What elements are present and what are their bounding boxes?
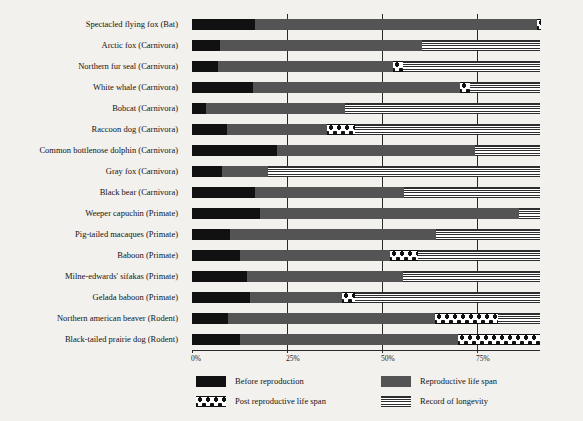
bar-segment-record-of-longevity: [404, 187, 540, 198]
bar-segment-before-reproduction: [192, 124, 227, 135]
bar-segment-record-of-longevity: [418, 250, 540, 261]
bar-segment-reproductive-life-span: [277, 145, 475, 156]
y-axis-label: Northern fur seal (Carnivora): [0, 56, 186, 77]
bar-row: [192, 224, 540, 245]
bar-segment-reproductive-life-span: [260, 208, 519, 219]
bar-segment-post-reproductive-life-span: [327, 124, 355, 135]
bar-segment-record-of-longevity: [268, 166, 540, 177]
bar-segment-reproductive-life-span: [250, 292, 342, 303]
bar-row: [192, 161, 540, 182]
bar-row: [192, 287, 540, 308]
bar-row: [192, 140, 540, 161]
y-axis-label: Northern american beaver (Rodent): [0, 308, 186, 329]
legend-row: Before reproduction Reproductive life sp…: [196, 371, 566, 391]
x-tick: [477, 350, 478, 353]
y-axis-label: Bobcat (Carnivora): [0, 98, 186, 119]
y-axis-label: Milne-edwards' sifakas (Primate): [0, 266, 186, 287]
legend-label-reproductive-life-span: Reproductive life span: [420, 376, 497, 386]
bar-segment-record-of-longevity: [498, 313, 540, 324]
y-axis-label: Gray fox (Carnivora): [0, 161, 186, 182]
bar-segment-reproductive-life-span: [228, 313, 435, 324]
bar-row: [192, 308, 540, 329]
bar-segment-reproductive-life-span: [227, 124, 327, 135]
legend-swatch-post-reproductive-life-span: [196, 396, 226, 407]
bar-row: [192, 98, 540, 119]
y-axis-label: Black bear (Carnivora): [0, 182, 186, 203]
y-axis-label: Weeper capuchin (Primate): [0, 203, 186, 224]
bar-segment-record-of-longevity: [422, 40, 540, 51]
bar-row: [192, 119, 540, 140]
bar-row: [192, 14, 540, 35]
bar-segment-record-of-longevity: [355, 124, 540, 135]
bar-segment-reproductive-life-span: [222, 166, 268, 177]
bar-segment-reproductive-life-span: [247, 271, 403, 282]
bar-segment-reproductive-life-span: [230, 229, 436, 240]
bar-row: [192, 266, 540, 287]
bar-segment-post-reproductive-life-span: [390, 250, 418, 261]
bar-segment-before-reproduction: [192, 166, 222, 177]
legend-item-record-of-longevity: Record of longevity: [381, 396, 566, 407]
bar-segment-post-reproductive-life-span: [342, 292, 355, 303]
bar-segment-reproductive-life-span: [240, 334, 458, 345]
chart-legend: Before reproduction Reproductive life sp…: [196, 371, 566, 411]
y-axis-label: Pig-tailed macaques (Primate): [0, 224, 186, 245]
bar-segment-reproductive-life-span: [255, 187, 404, 198]
y-axis-label: Gelada baboon (Primate): [0, 287, 186, 308]
legend-item-before-reproduction: Before reproduction: [196, 376, 381, 387]
bar-segment-record-of-longevity: [345, 103, 540, 114]
bar-segment-record-of-longevity: [403, 61, 540, 72]
bar-segment-record-of-longevity: [519, 208, 540, 219]
y-axis-label: Black-tailed prairie dog (Rodent): [0, 329, 186, 350]
legend-swatch-before-reproduction: [196, 376, 226, 387]
bar-row: [192, 245, 540, 266]
x-axis-line: [192, 350, 540, 351]
bar-segment-reproductive-life-span: [253, 82, 460, 93]
bar-row: [192, 77, 540, 98]
bar-segment-before-reproduction: [192, 313, 228, 324]
bar-segment-before-reproduction: [192, 40, 220, 51]
bar-segment-before-reproduction: [192, 19, 255, 30]
bar-segment-before-reproduction: [192, 292, 250, 303]
bar-segment-before-reproduction: [192, 82, 253, 93]
bar-segment-post-reproductive-life-span: [460, 82, 470, 93]
legend-label-post-reproductive-life-span: Post reproductive life span: [235, 396, 326, 406]
x-tick-label: 50%: [381, 354, 395, 363]
legend-label-record-of-longevity: Record of longevity: [420, 396, 488, 406]
bar-row: [192, 182, 540, 203]
legend-swatch-reproductive-life-span: [381, 376, 411, 387]
bar-segment-record-of-longevity: [470, 82, 540, 93]
x-tick-label: 75%: [476, 354, 490, 363]
y-axis-label: Arctic fox (Carnivora): [0, 35, 186, 56]
x-tick-label: 0%: [191, 354, 201, 363]
legend-item-reproductive-life-span: Reproductive life span: [381, 376, 566, 387]
bar-segment-before-reproduction: [192, 208, 260, 219]
bar-segment-record-of-longevity: [403, 271, 540, 282]
bar-segment-reproductive-life-span: [218, 61, 393, 72]
bar-segment-reproductive-life-span: [220, 40, 422, 51]
bar-segment-record-of-longevity: [475, 145, 540, 156]
bar-segment-post-reproductive-life-span: [435, 313, 498, 324]
bar-row: [192, 35, 540, 56]
bar-row: [192, 329, 540, 350]
bar-segment-before-reproduction: [192, 271, 247, 282]
y-axis-labels: Spectacled flying fox (Bat)Arctic fox (C…: [0, 14, 186, 350]
chart-container: Spectacled flying fox (Bat)Arctic fox (C…: [0, 0, 583, 421]
bar-segment-post-reproductive-life-span: [458, 334, 540, 345]
y-axis-label: Raccoon dog (Carnivora): [0, 119, 186, 140]
bar-segment-record-of-longevity: [355, 292, 540, 303]
bar-segment-before-reproduction: [192, 145, 277, 156]
x-tick: [192, 350, 193, 353]
bar-segment-before-reproduction: [192, 229, 230, 240]
bar-row: [192, 56, 540, 77]
legend-row: Post reproductive life span Record of lo…: [196, 391, 566, 411]
bar-segment-record-of-longevity: [436, 229, 540, 240]
bar-segment-before-reproduction: [192, 334, 240, 345]
x-tick-label: 25%: [286, 354, 300, 363]
y-axis-label: White whale (Carnivora): [0, 77, 186, 98]
y-axis-label: Common bottlenose dolphin (Carnivora): [0, 140, 186, 161]
x-tick: [287, 350, 288, 353]
bar-row: [192, 203, 540, 224]
bar-segment-before-reproduction: [192, 250, 240, 261]
bar-segment-before-reproduction: [192, 187, 255, 198]
plot-area: [192, 14, 540, 350]
